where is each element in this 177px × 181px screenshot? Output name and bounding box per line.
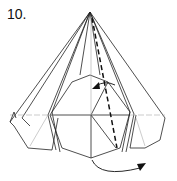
origami-diagram [0, 0, 177, 181]
turn-arrow-icon [92, 160, 140, 172]
